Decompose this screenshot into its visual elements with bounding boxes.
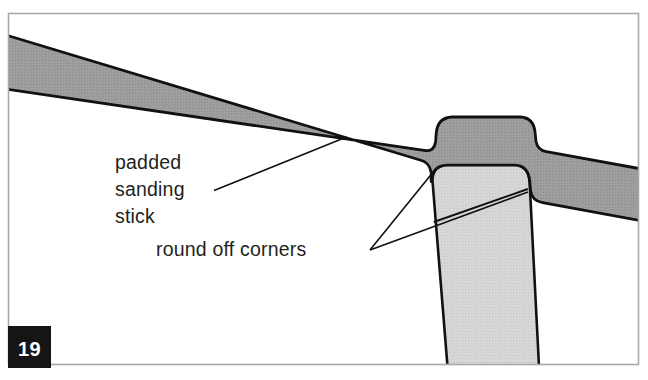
label-round-off-corners: round off corners [156, 238, 307, 260]
post-body [433, 165, 540, 367]
figure-illustration: padded sanding stick round off corners 1… [0, 0, 648, 380]
label-line-stick: stick [115, 205, 155, 227]
figure-number-badge: 19 [8, 326, 51, 368]
label-line-sanding: sanding [115, 178, 185, 200]
workpiece-post [433, 165, 540, 367]
figure-canvas: padded sanding stick round off corners 1… [0, 0, 648, 380]
label-line-padded: padded [115, 151, 181, 173]
badge-number: 19 [18, 338, 41, 360]
